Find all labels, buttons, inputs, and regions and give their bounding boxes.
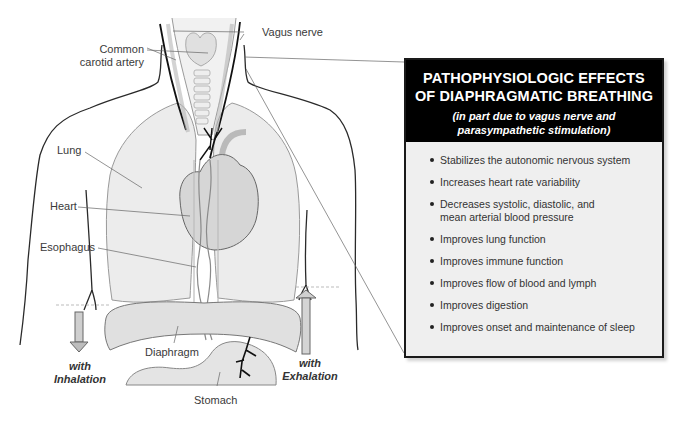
info-box-header: PATHOPHYSIOLOGIC EFFECTS OF DIAPHRAGMATI… [406,60,662,142]
inhalation-label: with Inhalation [50,360,110,386]
title-line2: OF DIAPHRAGMATIC BREATHING [412,87,656,105]
label-diaphragm: Diaphragm [145,346,199,359]
label-common-carotid-line1: Common [72,43,144,56]
effect-item: Decreases systolic, diastolic, and mean … [430,198,600,224]
label-common-carotid-line2: carotid artery [58,56,144,69]
effect-item: Stabilizes the autonomic nervous system [430,154,652,167]
effects-info-box: PATHOPHYSIOLOGIC EFFECTS OF DIAPHRAGMATI… [404,58,664,358]
subtitle-line1: (in part due to vagus nerve and [412,109,656,123]
effect-item: Improves flow of blood and lymph [430,277,652,290]
inhalation-arrow-icon [70,312,88,352]
exhalation-label-line2: Exhalation [278,370,342,383]
effects-list: Stabilizes the autonomic nervous system … [406,142,662,334]
info-box-title: PATHOPHYSIOLOGIC EFFECTS OF DIAPHRAGMATI… [412,69,656,105]
label-vagus-nerve: Vagus nerve [262,26,323,39]
effect-item: Improves immune function [430,255,652,268]
label-lung: Lung [57,144,81,157]
exhalation-label-line1: with [278,357,342,370]
label-esophagus: Esophagus [40,241,95,254]
label-stomach: Stomach [194,394,237,407]
effect-item: Improves lung function [430,233,652,246]
effect-item: Improves digestion [430,299,652,312]
inhalation-label-line2: Inhalation [50,373,110,386]
exhalation-label: with Exhalation [278,357,342,383]
effect-item: Increases heart rate variability [430,176,652,189]
label-heart: Heart [50,200,77,213]
effect-item: Improves onset and maintenance of sleep [430,321,652,334]
diaphragm [105,302,301,352]
subtitle-line2: parasympathetic stimulation) [412,123,656,137]
title-line1: PATHOPHYSIOLOGIC EFFECTS [412,69,656,87]
inhalation-label-line1: with [50,360,110,373]
info-box-subtitle: (in part due to vagus nerve and parasymp… [412,109,656,137]
